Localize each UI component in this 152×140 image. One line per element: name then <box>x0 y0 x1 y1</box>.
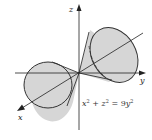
z-axis-label: z <box>69 6 73 14</box>
eq-y-exp: 2 <box>130 98 133 104</box>
left-cone <box>24 62 79 121</box>
eq-equals: = <box>109 99 121 108</box>
x-axis-arrow-icon <box>17 105 25 112</box>
x-axis-label: x <box>18 114 23 122</box>
z-axis-arrow-icon <box>77 4 82 11</box>
cone-equation: x2 + z2 = 9y2 <box>82 99 134 108</box>
double-cone-figure: z y x x2 + z2 = 9y2 <box>0 0 152 140</box>
y-axis-arrow-icon <box>139 71 146 76</box>
right-cone <box>79 19 148 91</box>
y-axis-label: y <box>140 77 145 85</box>
eq-plus: + <box>90 99 102 108</box>
